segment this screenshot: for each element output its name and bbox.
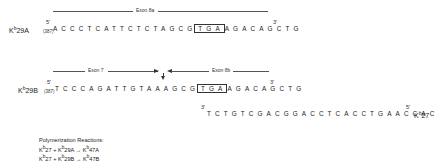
splice-junction-arrowhead-icon — [161, 76, 165, 80]
row2-stop-codon-box: TGA — [197, 84, 227, 93]
exon-8b-line-left — [171, 71, 209, 72]
row1-stop-codon-box: TGA — [194, 24, 224, 33]
reaction-arrow-icon: → — [76, 156, 82, 162]
reaction-1: Kb27 + Kb29A → Kb47A — [39, 145, 99, 153]
reaction-arrow-icon: → — [76, 147, 82, 153]
row1-label: Kb29A — [9, 25, 29, 34]
reaction-2: Kb27 + Kb29B → Kb47B — [39, 154, 99, 162]
exon-7-line-right — [108, 71, 158, 72]
row3-label: Kb27 — [414, 110, 429, 119]
reactions-title: Polymerization Reactions: — [39, 137, 104, 143]
row1-five-prime: 5' — [46, 19, 50, 25]
row1-three-prime: 3' — [273, 19, 277, 25]
exon-8b-line-right — [233, 71, 269, 72]
exon-7-line-left — [53, 71, 85, 72]
row1-position: (387) — [43, 29, 54, 34]
exon-8b-label: Exon 8b — [210, 67, 232, 73]
exon-7-arrowhead — [154, 69, 159, 73]
exon-7-label: Exon 7 — [86, 67, 106, 73]
row2-sequence: TCCCAGATTGTAAAGCGTGAAGACAGCTG — [55, 85, 305, 92]
exon-8a-line-left — [53, 11, 133, 12]
exon-8a-label: Exon 8a — [134, 7, 156, 13]
row2-five-prime: 5' — [47, 79, 51, 85]
row3-five-prime: 5' — [406, 104, 410, 110]
row3-sequence: TCTGTCGACGGACCTCACCTGAACCAC — [207, 110, 438, 117]
row2-label: Kb29B — [18, 85, 38, 94]
row1-sequence: ACCCTCATTCTCTAGCGTGAAGACAGCTG — [53, 25, 302, 32]
row2-position: (387) — [44, 89, 55, 94]
exon-8a-line-right — [158, 11, 268, 12]
row3-three-prime: 3' — [201, 104, 205, 110]
row2-three-prime: 3' — [270, 79, 274, 85]
